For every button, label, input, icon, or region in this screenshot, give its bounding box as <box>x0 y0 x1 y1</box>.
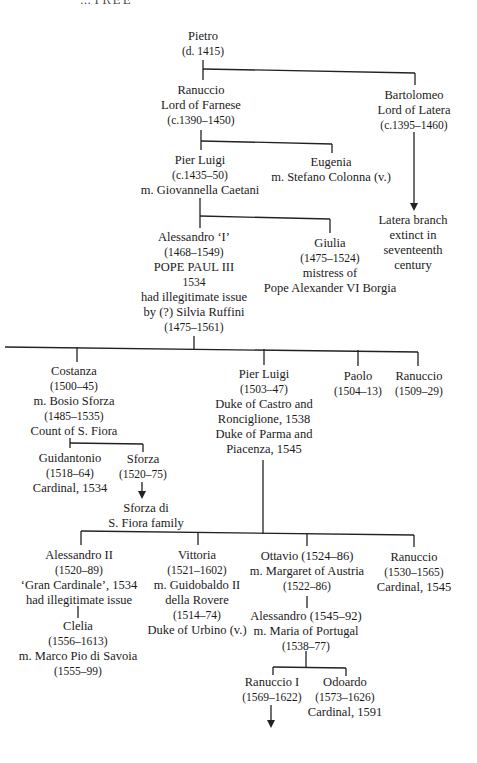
node-name: Sforza <box>119 452 167 467</box>
node-dates: (1521–1602) <box>147 563 246 578</box>
node-sforza: Sforza (1520–75) <box>119 452 167 482</box>
node-name: Ottavio (1524–86) <box>250 549 364 564</box>
node-title: ‘Gran Cardinale’, 1534 <box>21 578 137 593</box>
node-name: Alessandro ‘I’ <box>141 230 247 245</box>
node-name: Vittoria <box>147 548 246 563</box>
node-clelia: Clelia (1556–1613) m. Marco Pio di Savoi… <box>19 619 137 679</box>
node-dates: (1503–47) <box>215 382 313 397</box>
node-spouse-dates: (1522–86) <box>250 579 364 594</box>
node-title: Lord of Latera <box>378 103 451 118</box>
node-spouse: della Rovere <box>147 593 246 608</box>
node-dates: (1569–1622) <box>242 690 301 705</box>
node-name: Alessandro (1545–92) <box>250 609 361 624</box>
node-bartolomeo: Bartolomeo Lord of Latera (c.1395–1460) <box>378 88 451 133</box>
node-dates: (d. 1415) <box>182 44 224 59</box>
node-pier-luigi-duke: Pier Luigi (1503–47) Duke of Castro and … <box>215 367 313 457</box>
node-note: Pope Alexander VI Borgia <box>264 281 397 296</box>
node-alessandro-ii: Alessandro II (1520–89) ‘Gran Cardinale’… <box>21 548 137 608</box>
node-name: Ranuccio <box>395 369 443 384</box>
node-ranuccio-i: Ranuccio I (1569–1622) <box>242 675 301 705</box>
node-dates: (1509–29) <box>395 384 443 399</box>
node-dates: (1573–1626) <box>308 690 382 705</box>
node-name: Bartolomeo <box>378 88 451 103</box>
node-spouse: m. Giovannella Caetani <box>141 183 259 198</box>
node-title: Cardinal, 1545 <box>377 580 451 595</box>
node-note: mistress of <box>264 266 397 281</box>
node-dates: (c.1395–1460) <box>378 118 451 133</box>
node-spouse: m. Margaret of Austria <box>250 564 364 579</box>
node-name: Eugenia <box>271 155 391 170</box>
node-title: Lord of Farnese <box>161 98 241 113</box>
node-name: Giulia <box>264 236 397 251</box>
node-sforza-family: Sforza di S. Fiora family <box>108 501 183 531</box>
node-title: Cardinal, 1591 <box>308 705 382 720</box>
node-title: Count of S. Fiora <box>31 424 118 439</box>
node-title: POPE PAUL III <box>141 260 247 275</box>
node-giulia: Giulia (1475–1524) mistress of Pope Alex… <box>264 236 397 296</box>
node-title: Duke of Parma and <box>215 427 313 442</box>
node-dates: (1504–13) <box>334 384 382 399</box>
node-name: Ranuccio <box>377 550 451 565</box>
node-ranuccio-lord-of-farnese: Ranuccio Lord of Farnese (c.1390–1450) <box>161 83 241 128</box>
node-name: Ranuccio <box>161 83 241 98</box>
node-ranuccio-cardinal: Ranuccio (1530–1565) Cardinal, 1545 <box>377 550 451 595</box>
node-spouse: m. Guidobaldo II <box>147 578 246 593</box>
node-pier-luigi-elder: Pier Luigi (c.1435–50) m. Giovannella Ca… <box>141 153 259 198</box>
node-note: Sforza di <box>108 501 183 516</box>
node-spouse: m. Bosio Sforza <box>31 394 118 409</box>
node-ottavio: Ottavio (1524–86) m. Margaret of Austria… <box>250 549 364 594</box>
node-title: Cardinal, 1534 <box>33 481 107 496</box>
node-costanza: Costanza (1500–45) m. Bosio Sforza (1485… <box>31 364 118 439</box>
node-title: Ronciglione, 1538 <box>215 412 313 427</box>
node-eugenia: Eugenia m. Stefano Colonna (v.) <box>271 155 391 185</box>
node-title: Duke of Castro and <box>215 397 313 412</box>
node-name: Pier Luigi <box>141 153 259 168</box>
node-alessandro-i-pope-paul-iii: Alessandro ‘I’ (1468–1549) POPE PAUL III… <box>141 230 247 335</box>
node-pietro: Pietro (d. 1415) <box>182 29 224 59</box>
node-name: Pietro <box>182 29 224 44</box>
node-note: S. Fiora family <box>108 516 183 531</box>
node-title: Duke of Urbino (v.) <box>147 623 246 638</box>
node-title: Piacenza, 1545 <box>215 442 313 457</box>
node-dates: (1556–1613) <box>19 634 137 649</box>
node-ranuccio-1509: Ranuccio (1509–29) <box>395 369 443 399</box>
node-name: Guidantonio <box>33 451 107 466</box>
node-spouse-dates: (1555–99) <box>19 664 137 679</box>
node-dates: (1518–64) <box>33 466 107 481</box>
node-spouse: m. Stefano Colonna (v.) <box>271 170 391 185</box>
node-name: Paolo <box>334 369 382 384</box>
node-dates: (1475–1524) <box>264 251 397 266</box>
node-dates: (1520–89) <box>21 563 137 578</box>
node-name: Ranuccio I <box>242 675 301 690</box>
node-name: Clelia <box>19 619 137 634</box>
node-note: had illegitimate issue <box>141 290 247 305</box>
node-dates: (1530–1565) <box>377 565 451 580</box>
node-note: had illegitimate issue <box>21 593 137 608</box>
node-name: Pier Luigi <box>215 367 313 382</box>
node-guidantonio: Guidantonio (1518–64) Cardinal, 1534 <box>33 451 107 496</box>
node-spouse-dates: (1485–1535) <box>31 409 118 424</box>
node-spouse: m. Marco Pio di Savoia <box>19 649 137 664</box>
node-name: Alessandro II <box>21 548 137 563</box>
node-name: Costanza <box>31 364 118 379</box>
node-paolo: Paolo (1504–13) <box>334 369 382 399</box>
node-odoardo: Odoardo (1573–1626) Cardinal, 1591 <box>308 675 382 720</box>
node-dates: (c.1435–50) <box>141 168 259 183</box>
node-dates: (1520–75) <box>119 467 167 482</box>
node-note: Latera branch <box>378 213 447 228</box>
node-dates: (1500–45) <box>31 379 118 394</box>
node-dates: (1468–1549) <box>141 245 247 260</box>
node-dates: (c.1390–1450) <box>161 113 241 128</box>
node-vittoria: Vittoria (1521–1602) m. Guidobaldo II de… <box>147 548 246 638</box>
node-year: 1534 <box>141 275 247 290</box>
node-spouse: m. Maria of Portugal <box>250 624 361 639</box>
node-spouse-dates: (1514–74) <box>147 608 246 623</box>
node-note: by (?) Silvia Ruffini <box>141 305 247 320</box>
node-spouse-dates: (1538–77) <box>250 639 361 654</box>
node-alessandro-1545: Alessandro (1545–92) m. Maria of Portuga… <box>250 609 361 654</box>
node-name: Odoardo <box>308 675 382 690</box>
node-dates: (1475–1561) <box>141 320 247 335</box>
